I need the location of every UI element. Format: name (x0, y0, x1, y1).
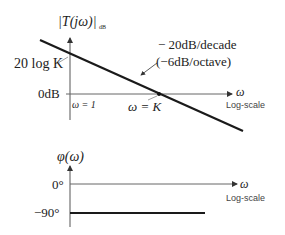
magnitude-y-label: |T(jω)| (58, 14, 97, 30)
y-tick-0dB: 0dB (38, 86, 60, 101)
magnitude-x-scale-label: Log-scale (226, 100, 265, 110)
phase-y-tick-0: 0° (52, 177, 64, 192)
x-marker-omega-K: ω = K (128, 99, 162, 114)
slope-annotation-line1: − 20dB/decade (158, 37, 237, 52)
phase-y-tick-minus90: −90° (34, 205, 60, 220)
slope-annotation-arrow (141, 63, 157, 75)
x-marker-omega-1: ω = 1 (72, 99, 96, 110)
phase-plot: φ(ω) 0° −90° ω Log-scale (34, 149, 265, 227)
magnitude-y-label-subscript: dB (99, 24, 106, 30)
phase-y-label: φ(ω) (57, 149, 84, 165)
y-tick-20logK: 20 log K (14, 56, 63, 71)
magnitude-plot: |T(jω)| dB 20 log K 0dB ω = 1 ω = K ω Lo… (14, 14, 265, 131)
crossing-point (157, 92, 161, 96)
phase-x-label: ω (240, 177, 248, 191)
phase-x-scale-label: Log-scale (226, 193, 265, 203)
magnitude-x-label: ω (236, 85, 244, 99)
slope-annotation-line2: (−6dB/octave) (156, 54, 231, 69)
bode-diagram: |T(jω)| dB 20 log K 0dB ω = 1 ω = K ω Lo… (0, 0, 285, 235)
